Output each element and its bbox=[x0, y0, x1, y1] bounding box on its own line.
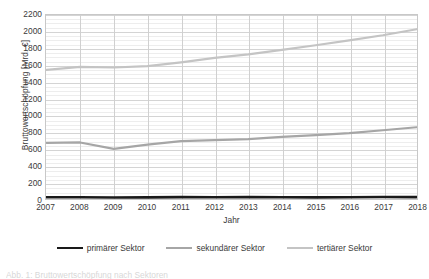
y-axis-tick: 800 bbox=[28, 128, 42, 136]
y-axis-tick: 200 bbox=[28, 179, 42, 187]
series-line bbox=[46, 29, 416, 70]
chart-legend: primärer Sektorsekundärer Sektortertiäre… bbox=[0, 243, 429, 253]
y-axis-tick: 1400 bbox=[23, 78, 42, 86]
series-line bbox=[46, 197, 416, 198]
y-axis-tick: 2000 bbox=[23, 27, 42, 35]
x-axis-tick: 2014 bbox=[273, 202, 292, 212]
y-axis-tick-labels: 0200400600800100012001400160018002000220… bbox=[12, 14, 42, 200]
y-axis-tick: 1600 bbox=[23, 61, 42, 69]
legend-line-swatch bbox=[57, 247, 83, 249]
y-axis-tick: 2200 bbox=[23, 10, 42, 18]
x-axis-tick: 2012 bbox=[205, 202, 224, 212]
y-axis-tick: 1000 bbox=[23, 111, 42, 119]
x-axis-tick: 2009 bbox=[104, 202, 123, 212]
legend-item[interactable]: primärer Sektor bbox=[57, 243, 145, 253]
plot-area bbox=[45, 14, 418, 200]
x-axis-tick: 2007 bbox=[36, 202, 55, 212]
y-axis-tick: 600 bbox=[28, 145, 42, 153]
x-axis-tick: 2017 bbox=[374, 202, 393, 212]
x-axis-tick: 2018 bbox=[408, 202, 427, 212]
y-axis-tick: 1800 bbox=[23, 44, 42, 52]
legend-label: tertiärer Sektor bbox=[317, 243, 372, 253]
series-line bbox=[46, 127, 416, 149]
y-axis-tick: 400 bbox=[28, 162, 42, 170]
legend-line-swatch bbox=[287, 247, 313, 249]
x-axis-tick: 2013 bbox=[239, 202, 258, 212]
chart-figure: Bruttowertschöpfung [Mrd. €] 02004006008… bbox=[0, 0, 429, 279]
legend-item[interactable]: sekundärer Sektor bbox=[166, 243, 264, 253]
x-axis-title: Jahr bbox=[45, 215, 418, 225]
legend-item[interactable]: tertiärer Sektor bbox=[287, 243, 372, 253]
x-axis-tick: 2008 bbox=[70, 202, 89, 212]
series-lines bbox=[46, 15, 417, 199]
legend-label: primärer Sektor bbox=[87, 243, 145, 253]
x-axis-tick-labels: 2007200820092010201120122013201420152016… bbox=[45, 202, 418, 216]
x-axis-tick: 2011 bbox=[172, 202, 190, 212]
x-axis-tick: 2010 bbox=[138, 202, 157, 212]
figure-caption: Abb. 1: Bruttowertschöpfung nach Sektore… bbox=[6, 270, 306, 279]
x-axis-tick: 2016 bbox=[341, 202, 360, 212]
legend-line-swatch bbox=[166, 247, 192, 249]
legend-label: sekundärer Sektor bbox=[196, 243, 264, 253]
y-axis-tick: 1200 bbox=[23, 95, 42, 103]
x-axis-tick: 2015 bbox=[307, 202, 326, 212]
